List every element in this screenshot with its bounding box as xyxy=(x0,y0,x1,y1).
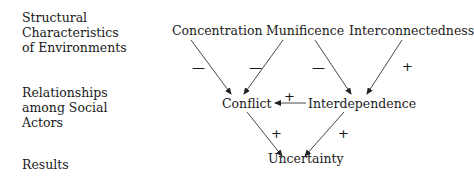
node-uncertainty: Uncertainty xyxy=(268,152,344,166)
sign-munificence-conflict: — xyxy=(249,61,262,74)
sign-concentration-conflict: — xyxy=(192,61,205,74)
sign-munificence-interdependence: — xyxy=(312,61,325,74)
sign-interdependence-uncertainty: + xyxy=(338,127,349,140)
node-munificence: Munificence xyxy=(266,24,344,38)
node-concentration: Concentration xyxy=(172,24,263,38)
sign-interconnectedness-interdependence: + xyxy=(402,60,413,73)
node-interconnectedness: Interconnectedness xyxy=(349,24,474,38)
node-conflict: Conflict xyxy=(222,97,272,111)
sign-interdependence-conflict: + xyxy=(284,90,295,103)
node-interdependence: Interdependence xyxy=(308,97,416,111)
sign-conflict-uncertainty: + xyxy=(271,127,282,140)
